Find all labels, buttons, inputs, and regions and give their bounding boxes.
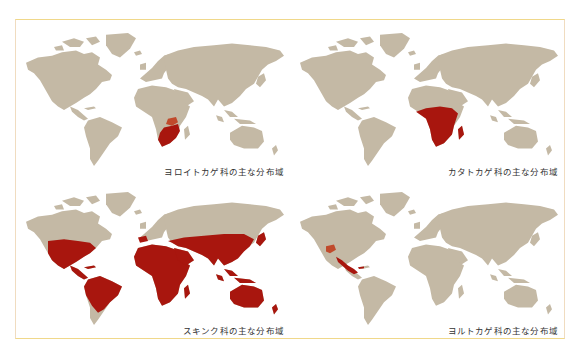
map-panel-gerrhosauridae: カタトカゲ科の主な分布域: [290, 19, 565, 180]
range-southeast-asia: [216, 269, 256, 283]
world-map: [292, 185, 562, 325]
range-north-america: [48, 239, 96, 269]
world-map: [292, 26, 562, 166]
world-map: [18, 185, 288, 325]
range-sub-saharan-africa: [416, 107, 458, 147]
range-south-america: [84, 276, 122, 313]
range-new-zealand: [272, 304, 278, 315]
world-map: [18, 26, 288, 166]
map-caption: カタトカゲ科の主な分布域: [448, 165, 558, 177]
range-australia: [230, 285, 264, 308]
map-grid: ヨロイトカゲ科の主な分布域 カタトカゲ科の主な分布域 スキンク科の: [15, 19, 565, 338]
map-panel-xantusiidae: ヨルトカゲ科の主な分布域: [290, 179, 565, 339]
map-caption: ヨロイトカゲ科の主な分布域: [164, 165, 284, 177]
range-madagascar: [184, 285, 190, 299]
map-panel-scincidae: スキンク科の主な分布域: [15, 179, 291, 339]
range-madagascar: [458, 126, 464, 140]
map-caption: スキンク科の主な分布域: [183, 324, 284, 336]
map-caption: ヨルトカゲ科の主な分布域: [448, 324, 558, 336]
range-caribbean: [84, 266, 96, 270]
map-panel-cordylidae: ヨロイトカゲ科の主な分布域: [15, 19, 291, 180]
